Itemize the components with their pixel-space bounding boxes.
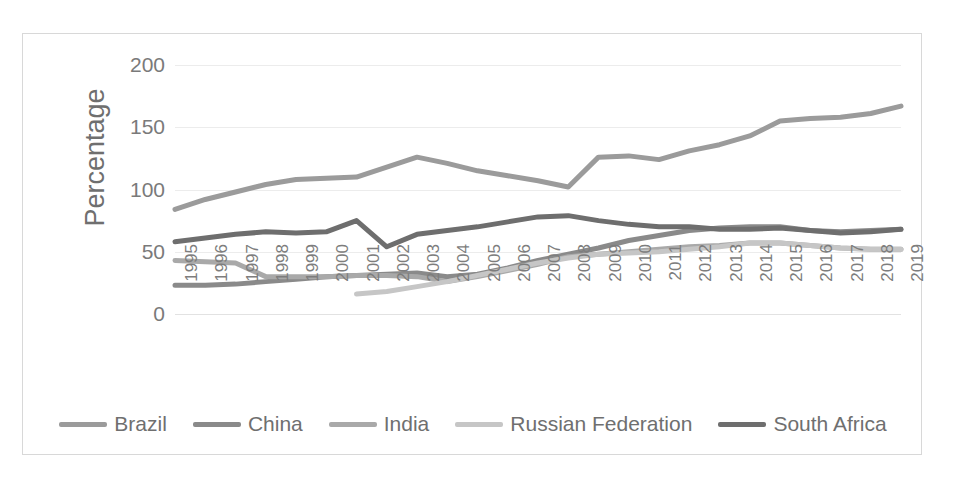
legend-item-china[interactable]: China <box>193 412 303 436</box>
legend-label: South Africa <box>773 412 886 436</box>
x-tick-label-2016: 2016 <box>817 244 837 318</box>
x-tick-label-2006: 2006 <box>515 244 535 318</box>
x-tick-label-2012: 2012 <box>696 244 716 318</box>
x-tick-label-2015: 2015 <box>787 244 807 318</box>
chart-frame: Percentage 050100150200 1995199619971998… <box>22 33 922 455</box>
chart-legend: BrazilChinaIndiaRussian FederationSouth … <box>23 412 923 436</box>
legend-swatch-icon <box>455 422 503 427</box>
series-line-brazil <box>175 106 901 209</box>
x-tick-label-2019: 2019 <box>908 244 928 318</box>
y-tick-label-0: 0 <box>109 303 165 324</box>
x-tick-label-2011: 2011 <box>666 244 686 318</box>
x-tick-label-2002: 2002 <box>394 244 414 318</box>
legend-item-brazil[interactable]: Brazil <box>59 412 167 436</box>
y-tick-label-150: 150 <box>109 116 165 137</box>
x-tick-label-1997: 1997 <box>243 244 263 318</box>
x-tick-label-2013: 2013 <box>727 244 747 318</box>
x-tick-label-2008: 2008 <box>575 244 595 318</box>
x-tick-label-2003: 2003 <box>424 244 444 318</box>
x-tick-label-1996: 1996 <box>212 244 232 318</box>
x-tick-label-1995: 1995 <box>182 244 202 318</box>
x-tick-label-1998: 1998 <box>273 244 293 318</box>
legend-swatch-icon <box>329 422 377 427</box>
x-tick-label-2017: 2017 <box>848 244 868 318</box>
legend-item-south-africa[interactable]: South Africa <box>718 412 886 436</box>
legend-swatch-icon <box>59 422 107 427</box>
x-tick-label-2010: 2010 <box>636 244 656 318</box>
x-tick-label-1999: 1999 <box>303 244 323 318</box>
chart-plot-wrapper: Percentage 050100150200 1995199619971998… <box>23 34 923 456</box>
legend-label: China <box>248 412 303 436</box>
legend-label: Brazil <box>114 412 167 436</box>
x-tick-label-2018: 2018 <box>878 244 898 318</box>
legend-swatch-icon <box>193 422 241 427</box>
legend-swatch-icon <box>718 422 766 427</box>
x-tick-label-2000: 2000 <box>333 244 353 318</box>
legend-label: India <box>384 412 430 436</box>
legend-item-russian-federation[interactable]: Russian Federation <box>455 412 692 436</box>
x-tick-label-2009: 2009 <box>606 244 626 318</box>
y-axis-tick-labels: 050100150200 <box>105 34 165 456</box>
x-tick-label-2004: 2004 <box>454 244 474 318</box>
legend-item-india[interactable]: India <box>329 412 430 436</box>
legend-label: Russian Federation <box>510 412 692 436</box>
x-tick-label-2001: 2001 <box>364 244 384 318</box>
y-tick-label-50: 50 <box>109 241 165 262</box>
y-tick-label-100: 100 <box>109 179 165 200</box>
x-tick-label-2014: 2014 <box>757 244 777 318</box>
x-tick-label-2005: 2005 <box>485 244 505 318</box>
x-tick-label-2007: 2007 <box>545 244 565 318</box>
y-tick-label-200: 200 <box>109 54 165 75</box>
x-axis-tick-labels: 1995199619971998199920002001200220032004… <box>175 318 901 418</box>
